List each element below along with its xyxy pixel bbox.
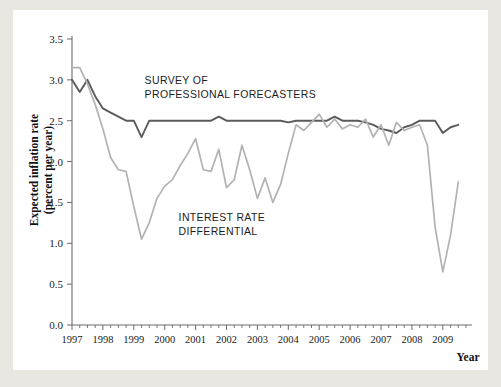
figure-background: 0.00.51.01.52.02.53.03.5 199719981999200… [0,0,501,387]
y-tick-label: 3.0 [49,74,63,86]
x-tick-label: 2003 [247,334,268,345]
x-tick-label: 1999 [123,334,144,345]
x-tick-labels: 1997199819992000200120022003200420052006… [62,334,454,345]
y-axis-title-line1: Expected inflation rate [28,114,41,226]
y-tick-label: 3.5 [49,33,63,45]
x-tick-label: 2005 [309,334,330,345]
axes [72,36,472,325]
x-tick-label: 1998 [92,334,113,345]
survey-of-professional-forecasters-line1: SURVEY OF [145,74,208,86]
inflation-expectations-chart: 0.00.51.01.52.02.53.03.5 199719981999200… [0,0,501,387]
x-axis-title: Year [457,351,480,363]
interest-rate-differential-line2: DIFFERENTIAL [179,225,258,237]
x-tick-label: 2004 [278,334,300,345]
x-tick-label: 2000 [154,334,175,345]
survey-of-professional-forecasters-line2: PROFESSIONAL FORECASTERS [145,88,316,100]
x-tick-label: 2008 [401,334,422,345]
y-tick-label: 1.0 [49,237,63,249]
x-tick-label: 2001 [185,334,206,345]
interest-rate-differential-line1: INTEREST RATE [179,211,265,223]
x-tick-label: 2009 [432,334,453,345]
x-tick-label: 2007 [371,334,392,345]
y-axis-title-line2: (percent per year) [42,126,55,215]
y-tick-label: 0.0 [49,319,63,331]
y-tick-label: 2.5 [49,115,63,127]
chart-annotations: SURVEY OFPROFESSIONAL FORECASTERSINTERES… [145,74,316,237]
y-tick-label: 0.5 [49,278,63,290]
x-tick-label: 2006 [340,334,361,345]
x-tick-label: 2002 [216,334,237,345]
x-tick-label: 1997 [62,334,83,345]
